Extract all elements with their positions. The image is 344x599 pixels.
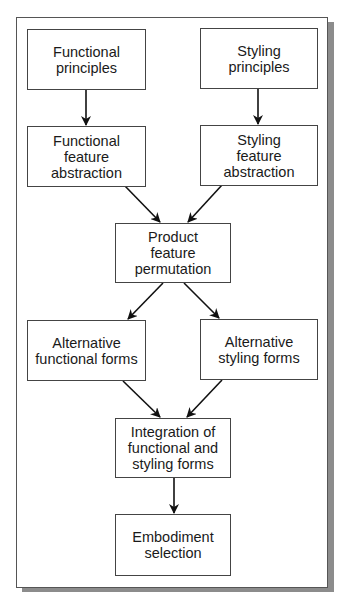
node-label: Integration of functional and styling fo… bbox=[128, 424, 218, 472]
node-label: Embodiment selection bbox=[132, 529, 213, 561]
node-label: Functional feature abstraction bbox=[51, 133, 122, 181]
node-styling-feature-abstraction: Styling feature abstraction bbox=[200, 125, 318, 186]
node-alternative-functional-forms: Alternative functional forms bbox=[27, 320, 146, 381]
diagram-frame bbox=[16, 17, 328, 588]
node-functional-feature-abstraction: Functional feature abstraction bbox=[27, 126, 146, 187]
node-product-feature-permutation: Product feature permutation bbox=[115, 223, 231, 283]
node-styling-principles: Styling principles bbox=[200, 28, 318, 89]
node-integration-of-forms: Integration of functional and styling fo… bbox=[115, 418, 231, 478]
node-label: Functional principles bbox=[53, 44, 120, 76]
node-label: Alternative styling forms bbox=[218, 334, 299, 366]
node-label: Alternative functional forms bbox=[35, 335, 137, 367]
node-alternative-styling-forms: Alternative styling forms bbox=[200, 319, 318, 380]
node-embodiment-selection: Embodiment selection bbox=[115, 514, 231, 576]
node-label: Styling principles bbox=[228, 43, 289, 75]
node-label: Product feature permutation bbox=[135, 229, 212, 277]
node-label: Styling feature abstraction bbox=[224, 132, 295, 180]
node-functional-principles: Functional principles bbox=[27, 29, 146, 90]
